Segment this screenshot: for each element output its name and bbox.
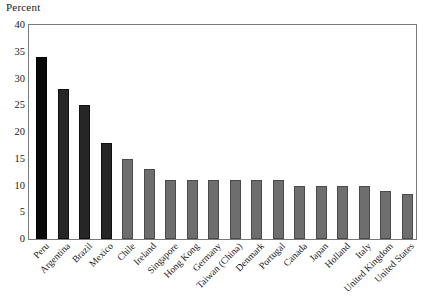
bar-germany <box>208 180 219 239</box>
y-tick-label: 5 <box>1 207 25 217</box>
bar-mexico <box>101 143 112 239</box>
bar-portugal <box>273 180 284 239</box>
bar-taiwan-china <box>230 180 241 239</box>
bar-united-kingdom <box>380 191 391 239</box>
bar-singapore <box>165 180 176 239</box>
bar-united-states <box>402 194 413 239</box>
y-tick-label: 0 <box>1 234 25 244</box>
y-tick-label: 40 <box>1 20 25 30</box>
y-tick-label: 25 <box>1 100 25 110</box>
bar-peru <box>36 57 47 239</box>
plot-area <box>28 24 417 240</box>
bar-canada <box>294 186 305 240</box>
y-tick-label: 35 <box>1 47 25 57</box>
y-tick-label: 15 <box>1 154 25 164</box>
bars-container <box>29 25 416 239</box>
bar-hong-kong <box>187 180 198 239</box>
y-tick-label: 30 <box>1 74 25 84</box>
y-tick-label: 10 <box>1 181 25 191</box>
x-axis-tick-labels: PeruArgentinaBrazilMexicoChileIrelandSin… <box>28 241 417 307</box>
bar-brazil <box>79 105 90 239</box>
bar-denmark <box>251 180 262 239</box>
bar-italy <box>359 186 370 240</box>
bar-chile <box>122 159 133 239</box>
bar-chart-figure: Percent 0510152025303540 PeruArgentinaBr… <box>0 0 424 307</box>
bar-ireland <box>144 169 155 239</box>
y-tick-label: 20 <box>1 127 25 137</box>
y-axis-tick-labels: 0510152025303540 <box>0 24 25 240</box>
bar-japan <box>316 186 327 240</box>
y-axis-title: Percent <box>6 1 40 14</box>
bar-holland <box>337 186 348 240</box>
bar-argentina <box>58 89 69 239</box>
